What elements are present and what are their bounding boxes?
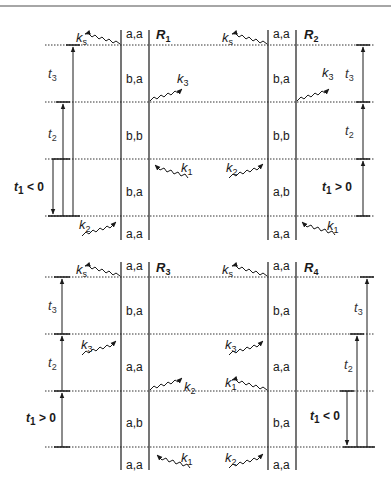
r3-k1-label: k1 [181, 451, 193, 467]
r4-t1-label: t1 < 0 [310, 410, 340, 425]
r3-t2-label: t2 [48, 356, 57, 372]
r1-state-3: b,a [126, 186, 143, 198]
r2-k3-label: k3 [322, 66, 334, 82]
r4-ks-label: ks [222, 263, 233, 279]
r1-t1-label: t1 < 0 [14, 181, 44, 196]
r2-k1-label: k1 [327, 219, 339, 235]
r4-state-3: b,a [273, 417, 290, 429]
r1-k2-label: k2 [79, 218, 91, 234]
r2-t2-label: t2 [345, 124, 354, 140]
r3-t3-label: t3 [48, 299, 57, 315]
r4-state-4: a,a [273, 459, 290, 471]
r4-interactions [229, 265, 267, 468]
ks-wave-icon [232, 33, 267, 44]
r2-state-3: a,b [273, 186, 290, 198]
r1-state-1: b,a [126, 73, 143, 85]
r3-label: R3 [156, 261, 170, 277]
r4-k1-label: k1 [225, 376, 237, 392]
k2-wave-icon [150, 378, 182, 390]
r1-state-2: b,b [126, 130, 143, 142]
r1-k3-label: k3 [177, 72, 189, 88]
r3-state-4: a,a [126, 459, 143, 471]
r4-k2-label: k2 [225, 451, 237, 467]
r3-state-3: a,b [126, 417, 143, 429]
r1-state-4: a,a [126, 228, 143, 240]
r2-state-4: a,a [273, 228, 290, 240]
r3-state-0: a,a [126, 260, 143, 272]
ks-wave-icon [232, 265, 267, 276]
r4-label: R4 [304, 261, 318, 277]
k3-wave-icon [150, 89, 182, 101]
r1-label: R1 [156, 28, 170, 44]
r2-k2-label: k2 [226, 161, 238, 177]
r3-k2-label: k2 [184, 380, 196, 396]
r3-ks-label: ks [76, 263, 87, 279]
r3-k3-label: k3 [81, 338, 93, 354]
r3-t1-label: t1 > 0 [26, 412, 56, 427]
r1-k1-label: k1 [181, 161, 193, 177]
r2-ks-label: ks [222, 31, 233, 47]
r1-t3-label: t3 [48, 67, 57, 83]
r4-t3-label: t3 [354, 301, 363, 317]
r1-ks-label: ks [76, 31, 87, 47]
r2-t3-label: t3 [345, 67, 354, 83]
r2-label: R2 [304, 28, 318, 44]
r4-state-1: b,a [273, 305, 290, 317]
r4-k3-label: k3 [225, 338, 237, 354]
panel-bottom [45, 262, 375, 470]
k3-wave-icon [297, 89, 329, 101]
ks-wave-icon [85, 265, 120, 276]
r2-state-2: b,b [273, 130, 290, 142]
ks-wave-icon [85, 33, 120, 44]
r2-t1-label: t1 > 0 [322, 181, 352, 196]
r4-state-0: a,a [273, 260, 290, 272]
r1-state-0: a,a [126, 28, 143, 40]
r4-state-2: a,a [273, 361, 290, 373]
r2-state-0: a,a [273, 28, 290, 40]
r1-t2-label: t2 [48, 127, 57, 143]
r4-t2-label: t2 [344, 358, 353, 374]
r3-state-1: b,a [126, 305, 143, 317]
r2-state-1: b,a [273, 73, 290, 85]
k1-wave-icon [232, 379, 267, 390]
panel-top [45, 30, 375, 240]
r3-state-2: a,a [126, 361, 143, 373]
